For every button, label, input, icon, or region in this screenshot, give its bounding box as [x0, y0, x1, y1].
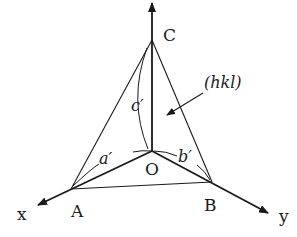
- plane-pointer-arrow: [167, 93, 203, 115]
- point-c-label: C: [163, 25, 176, 45]
- miller-plane-diagram: C O A B x y a′ b′ c′ (hkl): [0, 0, 297, 237]
- y-axis-label: y: [278, 206, 289, 226]
- x-axis: [38, 151, 152, 205]
- x-axis-label: x: [17, 204, 27, 224]
- point-a-label: A: [70, 201, 84, 221]
- plane-hkl-label: (hkl): [204, 73, 242, 92]
- intercept-c-label: c′: [131, 96, 144, 115]
- intercept-b-label: b′: [178, 147, 192, 166]
- edge-ab: [71, 182, 212, 189]
- point-b-label: B: [204, 195, 217, 215]
- intercept-a-label: a′: [99, 149, 113, 168]
- point-o-label: O: [145, 159, 159, 179]
